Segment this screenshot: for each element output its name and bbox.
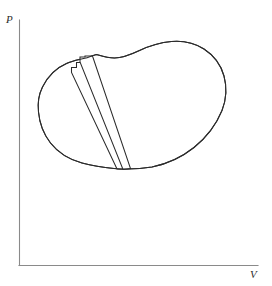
pv-diagram-figure: P V	[0, 0, 272, 286]
x-axis-label: V	[250, 268, 258, 280]
cycle-curve-group	[38, 41, 226, 169]
y-axis-label: P	[5, 13, 13, 25]
pv-diagram-canvas: P V	[0, 0, 272, 286]
outer-loop-path	[38, 41, 226, 169]
